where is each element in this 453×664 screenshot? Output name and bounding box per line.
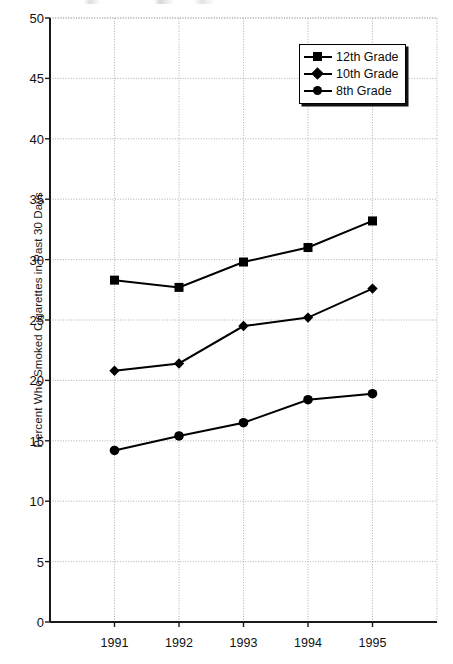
x-tick-label: 1991 <box>101 636 129 650</box>
legend-circle-marker-icon <box>304 84 332 98</box>
legend-item: 8th Grade <box>304 82 399 99</box>
legend-square-marker-icon <box>304 50 332 64</box>
x-tick-label: 1993 <box>230 636 258 650</box>
x-tick-label: 1995 <box>359 636 387 650</box>
chart-legend: 12th Grade10th Grade8th Grade <box>299 44 406 104</box>
legend-item-label: 12th Grade <box>332 50 399 64</box>
legend-item-label: 8th Grade <box>332 84 392 98</box>
x-tick-label: 1994 <box>294 636 322 650</box>
legend-item-label: 10th Grade <box>332 67 399 81</box>
legend-item: 12th Grade <box>304 48 399 65</box>
x-tick-label: 1992 <box>165 636 193 650</box>
legend-item: 10th Grade <box>304 65 399 82</box>
line-chart: Percent Who Smoked Cigarettes in Past 30… <box>0 0 453 664</box>
legend-diamond-marker-icon <box>304 67 332 81</box>
